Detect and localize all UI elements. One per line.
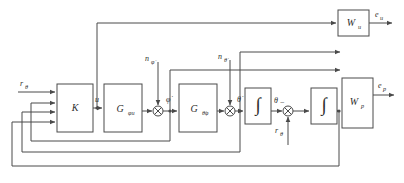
label-theta-dot: θ̇ (237, 95, 244, 104)
summing-junction-phidot[interactable] (153, 106, 163, 116)
minus-sign-theta: − (280, 98, 285, 107)
label-theta: θ (274, 96, 278, 105)
label-u-text: u (95, 95, 99, 104)
label-phi-dot: φ̇ (166, 95, 173, 104)
label-n-phi-dot-sub: φ̇ (151, 58, 156, 65)
block-integrator-1[interactable]: ∫ (245, 88, 271, 124)
block-G-phi-u[interactable]: G φu (104, 84, 142, 132)
label-theta-text: θ (274, 96, 278, 105)
block-G-thetadot-phi[interactable]: G θ̇φ (179, 84, 217, 132)
label-n-theta-dot-main: n (218, 52, 222, 61)
summing-junction-theta[interactable] (283, 106, 293, 116)
label-e-u-sub: u (380, 14, 383, 21)
label-r-theta-feedback-main: r (275, 126, 279, 135)
summing-junction-thetadot[interactable] (225, 106, 235, 116)
label-e-u: e u (375, 10, 383, 22)
block-diagram-canvas: K G φu G θ̇φ ∫ ∫ W u W p (0, 0, 404, 183)
block-G-phi-u-subscript: φu (128, 109, 135, 116)
label-e-u-main: e (375, 10, 379, 19)
block-diagram-svg: K G φu G θ̇φ ∫ ∫ W u W p (0, 0, 404, 183)
block-W-p-subscript: p (360, 102, 364, 109)
label-u: u (95, 95, 99, 104)
block-K[interactable]: K (57, 84, 93, 132)
label-phi-dot-text: φ̇ (166, 95, 173, 104)
label-e-p-sub: p (382, 85, 386, 92)
label-r-theta-input-main: r (20, 79, 24, 88)
block-G-phi-u-label: G (116, 103, 123, 114)
block-W-p[interactable]: W p (342, 78, 373, 128)
block-W-u[interactable]: W u (338, 10, 369, 36)
block-G-thetadot-phi-subscript: θ̇φ (202, 109, 209, 116)
label-r-theta-input: r θ (20, 79, 28, 91)
block-G-thetadot-phi-label: G (190, 103, 197, 114)
block-K-label: K (71, 102, 80, 113)
label-n-phi-dot: n φ̇ (145, 54, 156, 66)
block-W-u-subscript: u (358, 23, 361, 30)
label-n-phi-dot-main: n (145, 54, 149, 63)
label-r-theta-feedback: r θ (275, 126, 283, 138)
label-theta-dot-text: θ̇ (237, 95, 244, 104)
block-integrator-2[interactable]: ∫ (311, 88, 337, 124)
label-n-theta-dot: n θ̇ (218, 52, 229, 64)
label-e-p: e p (378, 81, 386, 93)
label-minus-theta: − (280, 98, 285, 107)
label-n-theta-dot-sub: θ̇ (224, 56, 229, 63)
label-e-p-main: e (378, 81, 382, 90)
label-r-theta-feedback-sub: θ (280, 130, 283, 137)
label-r-theta-input-sub: θ (25, 83, 28, 90)
